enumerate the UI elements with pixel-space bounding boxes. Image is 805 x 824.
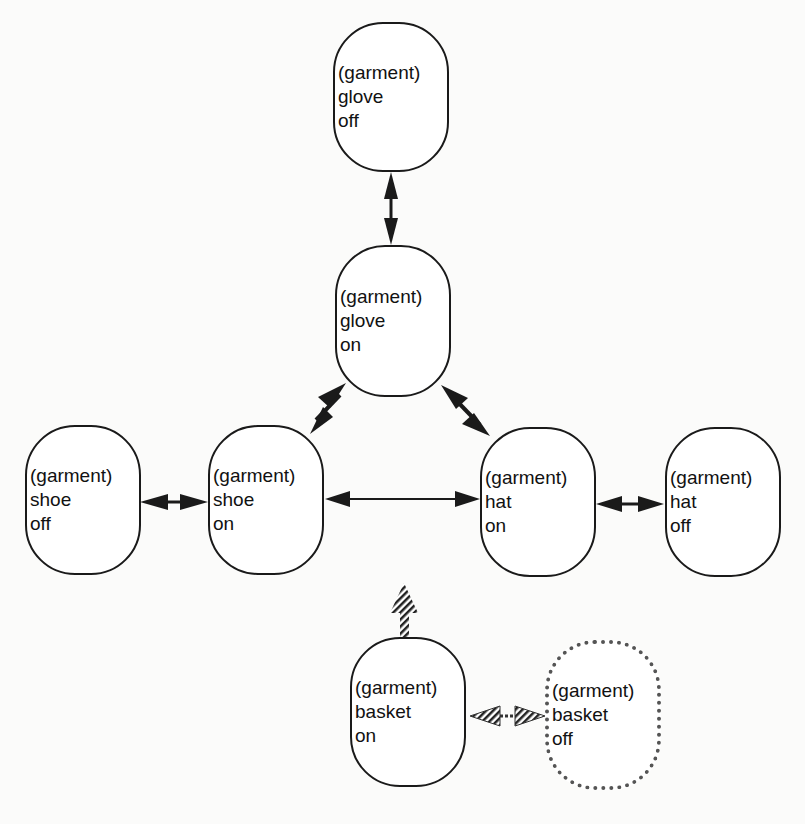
edge-hat-on-hat-off	[596, 496, 664, 512]
edge-glove-on-shoe-on	[310, 383, 346, 434]
node-shoe-on: (garment) shoe on	[208, 425, 324, 575]
node-basket-on: (garment) basket on	[350, 637, 466, 787]
node-label-state: off	[338, 109, 447, 133]
node-label-category: (garment)	[30, 464, 139, 488]
node-label-category: (garment)	[340, 285, 449, 309]
node-hat-on: (garment) hat on	[480, 427, 596, 577]
edge-basket-on-basket-off	[470, 706, 545, 726]
node-label-category: (garment)	[552, 679, 657, 703]
node-label-state: on	[340, 333, 449, 357]
edge-glove-off-glove-on	[384, 172, 398, 245]
node-label-item: glove	[338, 85, 447, 109]
node-label-item: basket	[552, 703, 657, 727]
node-label-item: glove	[340, 309, 449, 333]
node-label-item: basket	[355, 700, 464, 724]
node-label-category: (garment)	[355, 676, 464, 700]
node-hat-off: (garment) hat off	[665, 427, 781, 577]
edge-basket-on-up	[390, 583, 418, 638]
node-label-state: off	[670, 514, 779, 538]
edge-glove-on-hat-on	[441, 385, 490, 436]
node-label-category: (garment)	[213, 464, 322, 488]
node-label-category: (garment)	[338, 61, 447, 85]
node-label-state: on	[355, 724, 464, 748]
node-label-category: (garment)	[485, 466, 594, 490]
node-label-state: off	[30, 512, 139, 536]
node-label-category: (garment)	[670, 466, 779, 490]
node-glove-on: (garment) glove on	[335, 245, 451, 397]
node-glove-off: (garment) glove off	[333, 22, 449, 172]
node-label-item: hat	[670, 490, 779, 514]
node-basket-off: (garment) basket off	[545, 640, 661, 790]
node-label-state: on	[213, 512, 322, 536]
state-diagram: (garment) glove off (garment) glove on (…	[0, 0, 805, 824]
node-label-item: shoe	[213, 488, 322, 512]
node-label-state: off	[552, 727, 657, 751]
node-label-item: shoe	[30, 488, 139, 512]
node-shoe-off: (garment) shoe off	[25, 425, 141, 575]
node-label-state: on	[485, 514, 594, 538]
edge-shoe-off-shoe-on	[140, 494, 208, 510]
edge-shoe-on-hat-on	[325, 491, 480, 507]
node-label-item: hat	[485, 490, 594, 514]
